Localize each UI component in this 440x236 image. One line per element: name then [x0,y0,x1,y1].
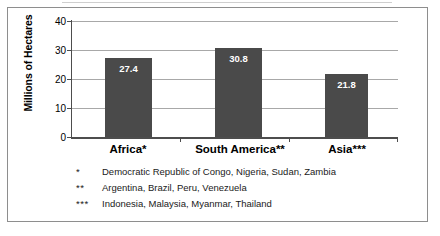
bar-value-south-america: 30.8 [215,53,262,64]
footnote-marker-2: ** [76,182,102,193]
category-label-africa: Africa* [88,143,168,155]
x-tick-mark-1 [180,138,181,142]
bar-chart-figure: Millions of Hectares 40 30 20 10 0 27.4 … [0,0,440,236]
y-axis-line [71,20,72,138]
category-label-south-america: South America** [184,143,296,155]
category-label-asia: Asia*** [304,143,390,155]
footnote-text-1: Democratic Republic of Congo, Nigeria, S… [102,166,336,177]
bar-value-africa: 27.4 [105,63,152,74]
y-tick-label-0: 0 [26,132,66,143]
footnote-text-3: Indonesia, Malaysia, Myanmar, Thailand [102,198,272,209]
footnote-row: * Democratic Republic of Congo, Nigeria,… [76,166,406,182]
y-tick-label-10: 10 [26,103,66,114]
footnote-row: ** Argentina, Brazil, Peru, Venezuela [76,182,406,198]
bar-asia[interactable]: 21.8 [325,74,368,137]
x-tick-mark-3 [397,138,398,142]
footnote-marker-3: *** [76,198,102,209]
scan-artifact-line [62,2,392,3]
y-tick-label-30: 30 [26,45,66,56]
x-axis-line [71,137,398,139]
bar-value-asia: 21.8 [325,79,368,90]
footnote-list: * Democratic Republic of Congo, Nigeria,… [76,166,406,214]
footnote-marker-1: * [76,166,102,177]
bar-south-america[interactable]: 30.8 [215,48,262,137]
gridline-40 [72,21,398,22]
footnote-text-2: Argentina, Brazil, Peru, Venezuela [102,182,247,193]
x-tick-mark-2 [289,138,290,142]
bar-africa[interactable]: 27.4 [105,58,152,138]
footnote-row: *** Indonesia, Malaysia, Myanmar, Thaila… [76,198,406,214]
y-tick-label-20: 20 [26,74,66,85]
y-tick-label-group: 40 30 20 10 0 [22,0,66,236]
y-tick-label-40: 40 [26,16,66,27]
